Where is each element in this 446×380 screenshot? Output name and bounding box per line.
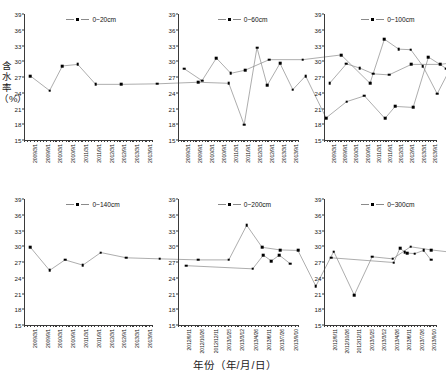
plot-area: 1518212427303336392009/3/12009/9/12010/3… bbox=[178, 14, 298, 140]
x-minor-tick bbox=[377, 140, 378, 142]
plot-area: 1518212427303336392009/3/12009/9/12010/3… bbox=[24, 199, 152, 325]
y-tick-label: 33 bbox=[315, 227, 324, 234]
x-minor-tick bbox=[107, 140, 108, 142]
x-minor-tick bbox=[430, 140, 431, 142]
x-tick-label: 2009/9/1 bbox=[45, 329, 51, 348]
x-minor-tick bbox=[241, 325, 242, 327]
x-minor-tick bbox=[104, 325, 105, 327]
data-point bbox=[244, 69, 247, 72]
y-tick-label: 33 bbox=[169, 227, 178, 234]
x-minor-tick bbox=[414, 325, 415, 327]
y-tick-label: 39 bbox=[15, 11, 24, 18]
x-minor-tick bbox=[374, 140, 375, 142]
x-minor-tick bbox=[405, 140, 406, 142]
data-point bbox=[201, 79, 204, 82]
x-minor-tick bbox=[187, 140, 188, 142]
x-minor-tick bbox=[374, 325, 375, 327]
y-tick-label: 27 bbox=[169, 259, 178, 266]
x-minor-tick bbox=[430, 325, 431, 327]
x-tick-label: 2013/1/25 bbox=[369, 329, 375, 351]
x-minor-tick bbox=[75, 325, 76, 327]
data-point bbox=[268, 58, 271, 61]
x-minor-tick bbox=[37, 140, 38, 142]
x-minor-tick bbox=[262, 140, 263, 142]
x-minor-tick bbox=[286, 140, 287, 142]
data-point bbox=[422, 249, 425, 252]
x-tick-label: 2012/9/1 bbox=[269, 144, 275, 163]
data-series-line bbox=[324, 199, 436, 325]
x-minor-tick bbox=[355, 140, 356, 142]
x-minor-tick bbox=[215, 325, 216, 327]
x-minor-tick bbox=[285, 325, 286, 327]
x-tick-label: 2010/3/1 bbox=[57, 144, 63, 163]
x-minor-tick bbox=[101, 140, 102, 142]
x-minor-tick bbox=[408, 325, 409, 327]
x-minor-tick bbox=[133, 325, 134, 327]
data-point bbox=[388, 74, 391, 77]
x-minor-tick bbox=[251, 325, 252, 327]
x-minor-tick bbox=[245, 325, 246, 327]
x-tick-label: 2013/6/11 bbox=[266, 329, 272, 350]
x-minor-tick bbox=[72, 140, 73, 142]
x-minor-tick bbox=[40, 140, 41, 142]
data-point bbox=[439, 63, 442, 66]
x-minor-tick bbox=[361, 325, 362, 327]
x-minor-tick bbox=[271, 325, 272, 327]
x-minor-tick bbox=[369, 140, 370, 142]
y-tick-label: 30 bbox=[315, 58, 324, 65]
x-minor-tick bbox=[392, 325, 393, 327]
data-point bbox=[183, 67, 186, 70]
x-minor-tick bbox=[208, 325, 209, 327]
x-tick-label: 2013/9/10 bbox=[431, 329, 437, 351]
y-tick-label: 27 bbox=[315, 74, 324, 81]
x-minor-tick bbox=[27, 325, 28, 327]
x-tick-label: 2013/9/1 bbox=[293, 144, 299, 163]
x-minor-tick bbox=[88, 140, 89, 142]
x-minor-tick bbox=[394, 140, 395, 142]
x-minor-tick bbox=[235, 325, 236, 327]
x-tick-label: 2010/3/1 bbox=[353, 144, 359, 163]
x-tick-label: 2012/12/11 bbox=[356, 329, 362, 353]
x-tick-label: 2012/10/26 bbox=[199, 329, 205, 354]
x-minor-tick bbox=[428, 140, 429, 142]
x-tick-label: 2013/3/1 bbox=[281, 144, 287, 163]
x-minor-tick bbox=[265, 325, 266, 327]
y-tick-label: 18 bbox=[315, 121, 324, 128]
data-point bbox=[278, 254, 281, 257]
plot-area: 1518212427303336392009/3/12009/9/12010/3… bbox=[324, 14, 436, 140]
chart-panel-0-20cm: 1518212427303336392009/3/12009/9/12010/3… bbox=[24, 14, 152, 140]
x-minor-tick bbox=[364, 325, 365, 327]
x-tick-label: 2013/9/10 bbox=[293, 329, 299, 351]
x-minor-tick bbox=[152, 325, 153, 327]
x-minor-tick bbox=[295, 325, 296, 327]
x-minor-tick bbox=[411, 325, 412, 327]
x-minor-tick bbox=[69, 140, 70, 142]
x-minor-tick bbox=[53, 325, 54, 327]
x-minor-tick bbox=[59, 325, 60, 327]
data-series-line bbox=[324, 14, 436, 140]
x-minor-tick bbox=[244, 140, 245, 142]
x-minor-tick bbox=[346, 140, 347, 142]
data-point bbox=[328, 82, 331, 85]
x-minor-tick bbox=[241, 140, 242, 142]
x-minor-tick bbox=[261, 325, 262, 327]
x-minor-tick bbox=[78, 325, 79, 327]
x-minor-tick bbox=[265, 140, 266, 142]
x-minor-tick bbox=[366, 140, 367, 142]
x-minor-tick bbox=[336, 325, 337, 327]
x-minor-tick bbox=[289, 140, 290, 142]
x-minor-tick bbox=[280, 140, 281, 142]
data-point bbox=[289, 262, 292, 265]
x-minor-tick bbox=[136, 140, 137, 142]
x-minor-tick bbox=[24, 140, 25, 142]
x-minor-tick bbox=[349, 140, 350, 142]
x-minor-tick bbox=[114, 140, 115, 142]
x-minor-tick bbox=[85, 140, 86, 142]
x-minor-tick bbox=[78, 140, 79, 142]
x-minor-tick bbox=[341, 140, 342, 142]
data-series-line bbox=[178, 199, 298, 325]
figure-root: 含水率（%） 年份（年/月/日） 1518212427303336392009/… bbox=[0, 0, 446, 380]
x-axis-title: 年份（年/月/日） bbox=[150, 357, 320, 372]
x-minor-tick bbox=[196, 140, 197, 142]
x-minor-tick bbox=[247, 140, 248, 142]
